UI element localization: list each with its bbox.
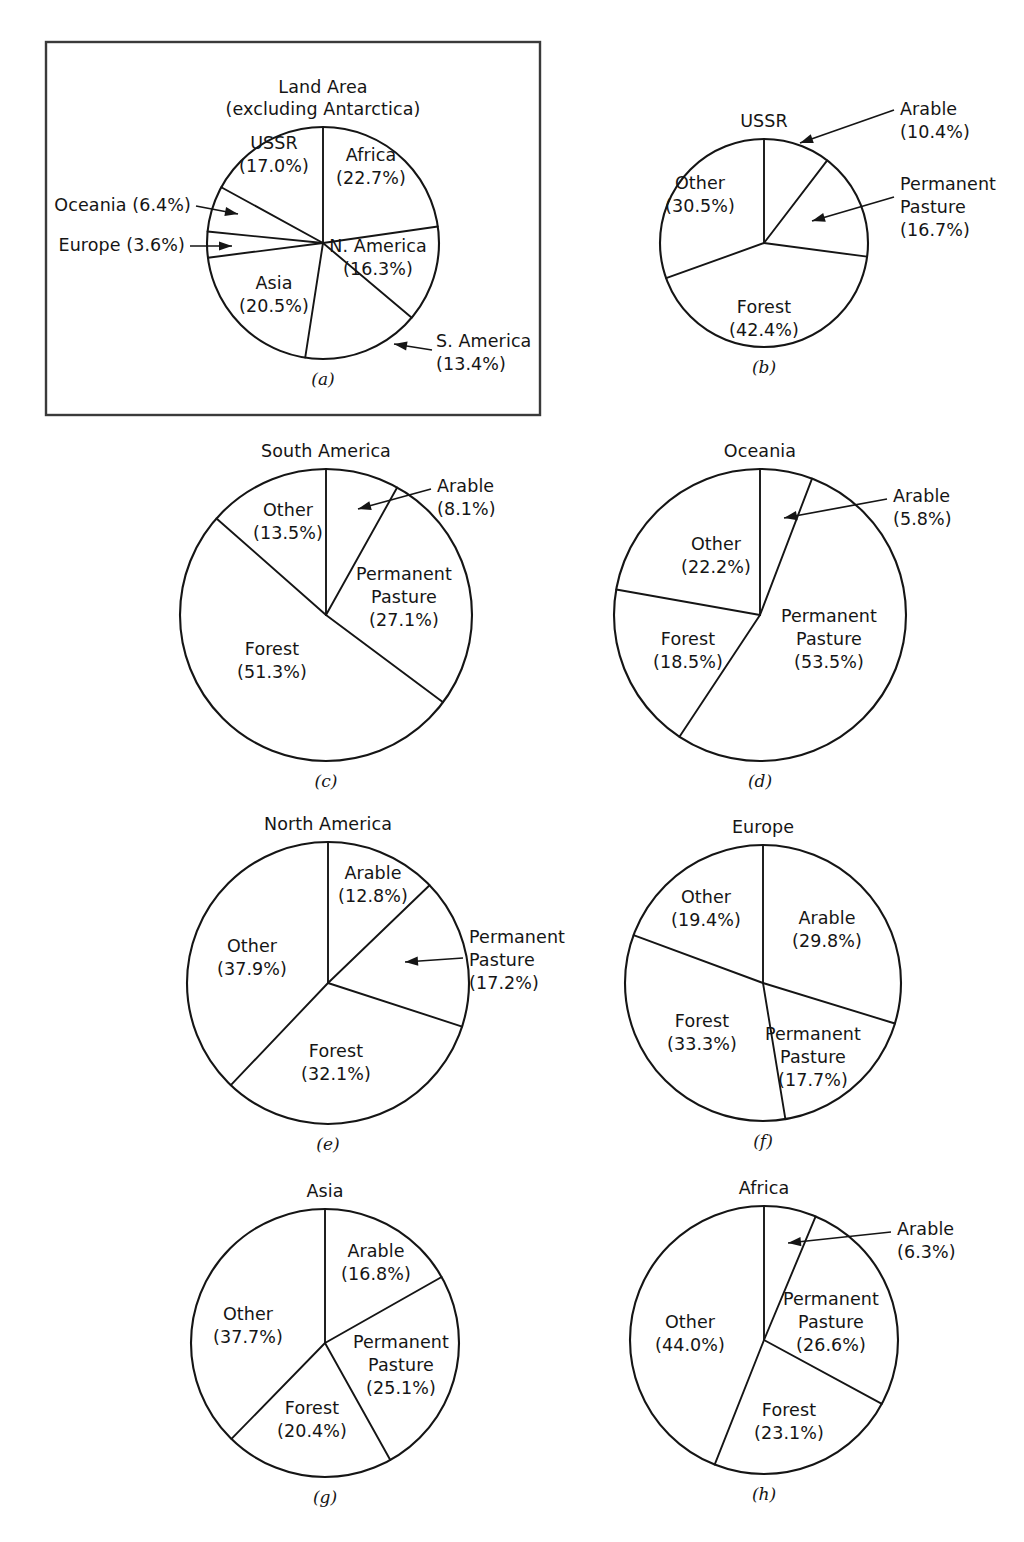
pie-spoke-f-1[interactable]	[763, 983, 895, 1023]
slice-label-b-2-value: (42.4%)	[729, 320, 799, 340]
pie-chart-canvas: Land Area(excluding Antarctica)(a)Africa…	[0, 0, 1024, 1542]
slice-label-c-3-value: (13.5%)	[253, 523, 323, 543]
pie-spoke-b-1[interactable]	[764, 160, 827, 243]
slice-label-c-2-value: (51.3%)	[237, 662, 307, 682]
slice-label-h-1-value: Pasture	[798, 1312, 864, 1332]
panel-caption-d: (d)	[748, 771, 772, 791]
callout-arrow-b-0	[800, 110, 894, 143]
panel-caption-c: (c)	[315, 771, 338, 791]
panel-caption-h: (h)	[752, 1484, 776, 1504]
slice-label-e-3-value: (37.9%)	[217, 959, 287, 979]
slice-label-h-3-value: (44.0%)	[655, 1335, 725, 1355]
panel-caption-e: (e)	[316, 1134, 339, 1154]
pie-chart-e: North America(e)Arable(12.8%)PermanentPa…	[187, 814, 565, 1154]
pie-chart-g: Asia(g)Arable(16.8%)PermanentPasture(25.…	[191, 1181, 459, 1507]
slice-label-d-1-value2: (53.5%)	[794, 652, 864, 672]
slice-label-b-1-value2: (16.7%)	[900, 220, 970, 240]
slice-label-h-3-name: Other	[665, 1312, 716, 1332]
pie-title-e: North America	[264, 814, 392, 834]
slice-label-c-3-name: Other	[263, 500, 314, 520]
slice-label-a-2-name: N. America	[329, 236, 426, 256]
slice-label-a-6-name: USSR	[250, 133, 298, 153]
slice-label-a-3-value: (20.5%)	[239, 296, 309, 316]
slice-label-d-0-value: (5.8%)	[893, 509, 952, 529]
pie-title-h: Africa	[739, 1178, 790, 1198]
slice-label-h-0-name: Arable	[897, 1219, 954, 1239]
slice-label-h-1-name: Permanent	[783, 1289, 879, 1309]
slice-label-e-0-name: Arable	[344, 863, 401, 883]
pie-chart-f: Europe(f)Arable(29.8%)PermanentPasture(1…	[625, 817, 901, 1151]
slice-label-c-0-name: Arable	[437, 476, 494, 496]
slice-label-g-1-name: Permanent	[353, 1332, 449, 1352]
slice-label-b-1-name: Permanent	[900, 174, 996, 194]
slice-label-e-0-value: (12.8%)	[338, 886, 408, 906]
pie-spoke-b-3[interactable]	[666, 243, 764, 278]
slice-label-a-3-name: Asia	[255, 273, 292, 293]
slice-label-e-1-value: Pasture	[469, 950, 535, 970]
pie-spoke-d-3[interactable]	[616, 589, 760, 615]
slice-label-c-1-value: Pasture	[371, 587, 437, 607]
slice-label-d-1-name: Permanent	[781, 606, 877, 626]
slice-label-d-2-value: (18.5%)	[653, 652, 723, 672]
slice-label-f-0-name: Arable	[798, 908, 855, 928]
pie-chart-c: South America(c)Arable(8.1%)PermanentPas…	[180, 441, 496, 791]
slice-label-b-3-value: (30.5%)	[665, 196, 735, 216]
slice-label-e-1-value2: (17.2%)	[469, 973, 539, 993]
slice-label-e-1-name: Permanent	[469, 927, 565, 947]
slice-label-g-3-value: (37.7%)	[213, 1327, 283, 1347]
pie-spoke-f-3[interactable]	[634, 935, 763, 983]
slice-label-a-1-name: S. America	[436, 331, 531, 351]
slice-label-a-2-value: (16.3%)	[343, 259, 413, 279]
slice-label-b-0-name: Arable	[900, 99, 957, 119]
slice-label-c-1-value2: (27.1%)	[369, 610, 439, 630]
slice-label-b-3-name: Other	[675, 173, 726, 193]
slice-label-h-0-value: (6.3%)	[897, 1242, 956, 1262]
slice-label-f-2-value: (33.3%)	[667, 1034, 737, 1054]
panel-caption-b: (b)	[752, 357, 776, 377]
slice-label-f-1-name: Permanent	[765, 1024, 861, 1044]
callout-arrow-b-1	[812, 197, 894, 222]
pie-title-f: Europe	[732, 817, 794, 837]
pie-title-g: Asia	[306, 1181, 343, 1201]
callout-arrow-a-4	[190, 241, 232, 250]
slice-label-d-1-value: Pasture	[796, 629, 862, 649]
slice-label-b-1-value: Pasture	[900, 197, 966, 217]
slice-label-c-1-name: Permanent	[356, 564, 452, 584]
pie-spoke-e-2[interactable]	[328, 983, 462, 1027]
pie-chart-d: Oceania(d)Arable(5.8%)PermanentPasture(5…	[614, 441, 952, 791]
slice-label-d-3-value: (22.2%)	[681, 557, 751, 577]
slice-label-a-1-value: (13.4%)	[436, 354, 506, 374]
callout-arrow-a-5	[196, 206, 238, 216]
panel-caption-g: (g)	[313, 1487, 337, 1507]
pie-chart-a: Land Area(excluding Antarctica)(a)Africa…	[46, 42, 540, 415]
slice-label-f-3-value: (19.4%)	[671, 910, 741, 930]
slice-label-d-2-name: Forest	[661, 629, 715, 649]
slice-label-g-1-value: Pasture	[368, 1355, 434, 1375]
slice-label-a-0-name: Africa	[346, 145, 397, 165]
slice-label-e-2-name: Forest	[309, 1041, 363, 1061]
figure-root: Land Area(excluding Antarctica)(a)Africa…	[0, 0, 1024, 1542]
slice-label-c-0-value: (8.1%)	[437, 499, 496, 519]
slice-label-b-2-name: Forest	[737, 297, 791, 317]
pie-title-a: Land Area	[278, 77, 367, 97]
slice-label-a-6-value: (17.0%)	[239, 156, 309, 176]
callout-arrow-e-1	[405, 957, 463, 966]
slice-label-b-0-value: (10.4%)	[900, 122, 970, 142]
slice-label-d-0-name: Arable	[893, 486, 950, 506]
slice-label-f-0-value: (29.8%)	[792, 931, 862, 951]
pie-spoke-d-1[interactable]	[760, 479, 812, 615]
slice-label-f-3-name: Other	[681, 887, 732, 907]
pie-chart-h: Africa(h)Arable(6.3%)PermanentPasture(26…	[630, 1178, 956, 1504]
slice-label-g-0-name: Arable	[347, 1241, 404, 1261]
pie-spoke-b-2[interactable]	[764, 243, 867, 257]
pie-title-c: South America	[261, 441, 391, 461]
slice-label-e-3-name: Other	[227, 936, 278, 956]
slice-label-a-0-value: (22.7%)	[336, 168, 406, 188]
panel-caption-a: (a)	[311, 369, 334, 389]
slice-label-g-1-value2: (25.1%)	[366, 1378, 436, 1398]
slice-label-e-2-value: (32.1%)	[301, 1064, 371, 1084]
slice-label-g-0-value: (16.8%)	[341, 1264, 411, 1284]
callout-arrow-a-1	[394, 341, 432, 350]
pie-spoke-h-3[interactable]	[715, 1340, 764, 1465]
slice-label-f-2-name: Forest	[675, 1011, 729, 1031]
